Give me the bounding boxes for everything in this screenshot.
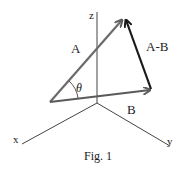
z-axis-label: z	[89, 9, 94, 21]
vector-a-label: A	[71, 41, 81, 56]
vector-a	[50, 20, 122, 102]
vector-a-minus-b-label: A-B	[146, 39, 169, 54]
vector-b-label: B	[127, 102, 136, 117]
x-axis	[22, 103, 97, 144]
angle-theta-label: θ	[76, 81, 82, 95]
x-axis-label: x	[13, 133, 19, 145]
figure-caption: Fig. 1	[84, 149, 112, 163]
coordinate-axes: z x y	[13, 9, 173, 147]
y-axis-label: y	[167, 135, 173, 147]
vector-a-minus-b	[126, 20, 151, 89]
vector-b	[50, 90, 150, 102]
vector-diagram: z x y A B A-B θ Fig. 1	[0, 0, 184, 170]
